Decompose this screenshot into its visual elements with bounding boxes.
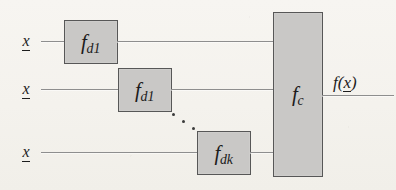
ellipsis-dot-1 xyxy=(172,113,175,116)
wire-input-2-to-module-2 xyxy=(41,89,119,90)
figure-canvas: x fd1 x fd1 x fdk fc f(x) xyxy=(0,0,396,190)
combiner-module-fc[interactable]: fc xyxy=(273,12,323,177)
input-label-2: x xyxy=(18,81,34,99)
module-1-subscript: d1 xyxy=(87,41,101,56)
wire-module-3-to-combiner xyxy=(250,152,274,153)
module-2-subscript: d1 xyxy=(141,89,155,104)
combiner-subscript: c xyxy=(297,93,303,108)
ellipsis-dot-2 xyxy=(182,120,185,123)
wire-input-1-to-module-1 xyxy=(41,41,65,42)
wire-module-2-to-combiner xyxy=(171,89,274,90)
ellipsis-dot-3 xyxy=(192,127,195,130)
module-3-label: fdk xyxy=(214,143,233,164)
input-label-3: x xyxy=(18,144,34,162)
output-vector: x xyxy=(343,74,351,92)
input-vector-2: x xyxy=(22,81,29,99)
module-fdk[interactable]: fdk xyxy=(197,131,251,175)
module-2-label: fd1 xyxy=(135,80,155,101)
output-label: f(x) xyxy=(333,74,357,92)
module-fd1-second[interactable]: fd1 xyxy=(118,68,172,112)
module-1-label: fd1 xyxy=(81,32,101,53)
module-3-subscript: dk xyxy=(220,152,233,167)
wire-combiner-to-output xyxy=(322,95,394,96)
input-vector-1: x xyxy=(22,33,29,51)
combiner-label: fc xyxy=(292,84,304,105)
module-fd1-first[interactable]: fd1 xyxy=(64,20,118,64)
wire-module-1-to-combiner xyxy=(117,41,274,42)
wire-input-3-to-module-3 xyxy=(41,152,198,153)
input-vector-3: x xyxy=(22,144,29,162)
input-label-1: x xyxy=(18,33,34,51)
